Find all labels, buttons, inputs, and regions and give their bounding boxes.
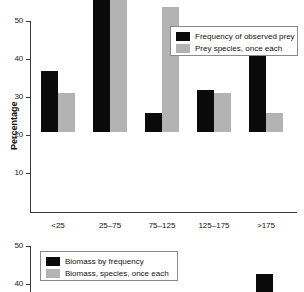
bottom-y-tick-label-40: 40 <box>8 280 23 288</box>
bottom-y-tick-mark-40 <box>26 284 30 285</box>
legend-swatch-dark-icon <box>176 32 190 41</box>
bar-dark-125-175 <box>197 90 214 132</box>
bottom-y-axis-line <box>30 246 31 292</box>
x-tick-label-gt175: >175 <box>244 222 288 230</box>
bar-light-lt25 <box>58 93 75 132</box>
x-tick-label-125-175: 125–175 <box>192 222 236 230</box>
x-tick-label-25-75: 25–75 <box>88 222 132 230</box>
legend-item-prey-species-once-each: Prey species, once each <box>176 42 292 54</box>
legend-label-prey-species-once-each: Prey species, once each <box>195 44 282 53</box>
bottom-y-tick-mark-50 <box>26 246 30 247</box>
bottom-y-tick-label-50: 50 <box>8 242 23 250</box>
bar-dark-lt25 <box>41 71 58 132</box>
top-chart-legend: Frequency of observed prey Prey species,… <box>170 26 298 56</box>
x-axis-line <box>30 212 297 213</box>
bottom-chart-legend: Biomass by frequency Biomass, species, o… <box>40 251 178 281</box>
legend-item-frequency-observed-prey: Frequency of observed prey <box>176 30 292 42</box>
legend-item-biomass-species-once-each: Biomass, species, once each <box>46 267 172 279</box>
top-chart-panel: Percentage 50 40 30 20 10 <box>0 0 304 238</box>
bar-dark-gt175 <box>249 48 266 132</box>
legend-label-biomass-by-frequency: Biomass by frequency <box>65 257 144 266</box>
bottom-chart-panel: 50 40 Biomass by frequency Biomass, spec… <box>0 238 304 292</box>
bar-dark-25-75 <box>93 0 110 132</box>
x-tick-label-75-125: 75–125 <box>140 222 184 230</box>
bar-light-125-175 <box>214 93 231 132</box>
x-tick-label-lt25: <25 <box>36 222 80 230</box>
legend-swatch-dark-icon <box>46 257 60 266</box>
bar-dark-75-125 <box>145 113 162 132</box>
legend-label-frequency-observed-prey: Frequency of observed prey <box>195 32 295 41</box>
bottom-bar-dark-gt175 <box>256 274 273 292</box>
figure-root: Percentage 50 40 30 20 10 <box>0 0 304 292</box>
legend-swatch-light-icon <box>46 269 60 278</box>
legend-label-biomass-species-once-each: Biomass, species, once each <box>65 269 169 278</box>
legend-swatch-light-icon <box>176 44 190 53</box>
bar-light-gt175 <box>266 113 283 132</box>
bar-light-25-75 <box>110 0 127 132</box>
legend-item-biomass-by-frequency: Biomass by frequency <box>46 255 172 267</box>
